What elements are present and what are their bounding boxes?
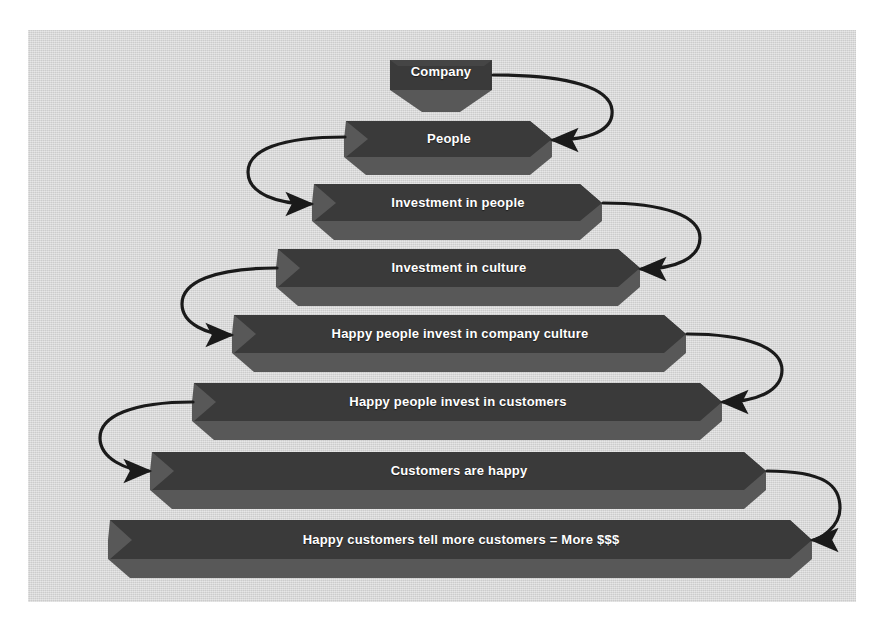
node-people[interactable] bbox=[344, 121, 552, 175]
node-people-face bbox=[346, 121, 552, 157]
node-invest-people-face bbox=[314, 184, 602, 221]
node-invest-customers[interactable] bbox=[192, 383, 722, 440]
node-customers-happy[interactable] bbox=[150, 452, 766, 509]
diagram-shapes-layer bbox=[0, 0, 883, 628]
node-invest-culture-face bbox=[278, 249, 640, 287]
node-more-money-face bbox=[110, 520, 812, 559]
node-invest-people[interactable] bbox=[312, 184, 602, 240]
node-company-bevel bbox=[390, 60, 492, 66]
diagram-root: Company People Investment in people Inve… bbox=[0, 0, 883, 628]
node-invest-company-face bbox=[234, 315, 686, 353]
node-more-money[interactable] bbox=[108, 520, 812, 578]
node-invest-culture[interactable] bbox=[276, 249, 640, 306]
node-invest-customers-face bbox=[194, 383, 722, 421]
node-company[interactable] bbox=[390, 60, 492, 112]
node-invest-company[interactable] bbox=[232, 315, 686, 372]
node-customers-happy-face bbox=[152, 452, 766, 490]
